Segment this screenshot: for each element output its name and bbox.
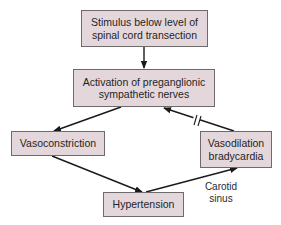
edge-label-carotid: Carotid (196, 181, 246, 193)
node-activation-line2: sympathetic nerves (83, 88, 206, 101)
node-hypertension-label: Hypertension (113, 198, 175, 211)
node-vasoconstriction-label: Vasoconstriction (20, 137, 96, 150)
node-vasoconstriction: Vasoconstriction (11, 131, 105, 156)
node-stimulus-line2: spinal cord transection (91, 29, 198, 42)
edge-vasoconstriction-to-hypertension (52, 156, 142, 192)
edge-label-carotid-sinus: Carotid sinus (196, 181, 246, 205)
node-hypertension: Hypertension (103, 192, 184, 217)
node-stimulus: Stimulus below level of spinal cord tran… (81, 10, 208, 47)
edge-label-sinus: sinus (196, 193, 246, 205)
node-vasodilation-line1: Vasodilation (208, 137, 264, 150)
pathway-break-icon (192, 114, 201, 126)
flowchart-diagram: Stimulus below level of spinal cord tran… (0, 0, 281, 225)
node-vasodilation-line2: bradycardia (208, 150, 264, 163)
node-activation: Activation of preganglionic sympathetic … (73, 69, 215, 107)
node-vasodilation: Vasodilation bradycardia (200, 131, 272, 168)
node-activation-line1: Activation of preganglionic (83, 76, 206, 89)
node-stimulus-line1: Stimulus below level of (91, 16, 198, 29)
edge-activation-to-vasoconstriction (54, 107, 121, 131)
